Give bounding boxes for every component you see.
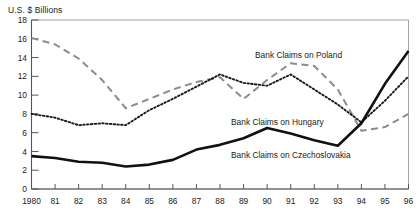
x-axis-ticks: 198081828384858687888990919293949596	[22, 184, 413, 206]
x-tick-label: 90	[262, 196, 272, 206]
line-chart-plot: 024681012141618 198081828384858687888990…	[0, 0, 419, 217]
data-series-group	[32, 38, 409, 167]
x-tick-label: 91	[286, 196, 296, 206]
x-tick-label: 88	[215, 196, 225, 206]
series-annotation: Bank Claims on Czechoslovakia	[231, 150, 351, 160]
y-tick-label: 8	[22, 109, 27, 119]
x-tick-label: 89	[239, 196, 249, 206]
y-axis-ticks: 024681012141618	[18, 15, 39, 194]
x-tick-label: 96	[404, 196, 414, 206]
series-line	[32, 51, 409, 166]
x-tick-label: 87	[192, 196, 202, 206]
x-tick-label: 83	[98, 196, 108, 206]
x-tick-label: 85	[145, 196, 155, 206]
y-tick-label: 0	[22, 184, 27, 194]
y-tick-label: 12	[18, 71, 28, 81]
series-line	[32, 74, 409, 125]
x-tick-label: 93	[333, 196, 343, 206]
chart-container: U.S. $ Billions 024681012141618 19808182…	[0, 0, 419, 217]
x-tick-label: 94	[357, 196, 367, 206]
y-tick-label: 6	[22, 128, 27, 138]
y-tick-label: 4	[22, 147, 27, 157]
y-tick-label: 18	[18, 15, 28, 25]
x-tick-label: 95	[380, 196, 390, 206]
y-tick-label: 2	[22, 165, 27, 175]
x-tick-label: 81	[50, 196, 60, 206]
x-tick-label: 1980	[22, 196, 41, 206]
y-tick-label: 14	[18, 53, 28, 63]
x-tick-label: 84	[121, 196, 131, 206]
x-tick-label: 92	[310, 196, 320, 206]
plot-frame	[32, 20, 409, 189]
x-tick-label: 82	[74, 196, 84, 206]
series-annotation: Bank Claims on Poland	[255, 50, 342, 60]
x-tick-label: 86	[168, 196, 178, 206]
y-tick-label: 16	[18, 34, 28, 44]
series-line	[32, 38, 409, 131]
series-annotation: Bank Claims on Hungary	[231, 117, 324, 127]
y-tick-label: 10	[18, 90, 28, 100]
